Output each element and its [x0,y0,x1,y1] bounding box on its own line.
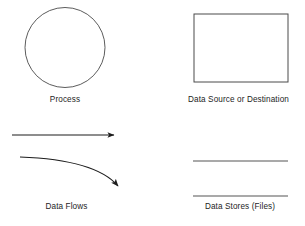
data-flows-label: Data Flows [0,202,133,212]
curved-arrow-shape [20,157,118,186]
data-source-rectangle-shape [194,14,288,82]
data-source-destination-label: Data Source or Destination [172,95,305,105]
data-stores-label: Data Stores (Files) [178,202,302,212]
dfd-symbols-canvas [0,0,305,226]
process-circle-shape [25,8,105,88]
process-label: Process [0,95,130,105]
